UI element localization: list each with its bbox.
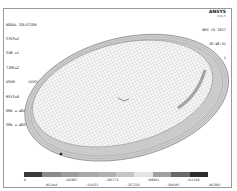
legend-swatch [171, 172, 189, 177]
legend-swatch [98, 172, 116, 177]
legend-swatch [190, 172, 208, 177]
legend-swatch [61, 172, 79, 177]
legend-swatch [24, 172, 42, 177]
deformed-mesh-plot [0, 0, 237, 191]
legend-swatch [42, 172, 60, 177]
legend-swatch [134, 172, 152, 177]
legend-swatch [116, 172, 134, 177]
legend-swatch [153, 172, 171, 177]
color-legend-bar [24, 172, 208, 177]
legend-swatch [79, 172, 97, 177]
